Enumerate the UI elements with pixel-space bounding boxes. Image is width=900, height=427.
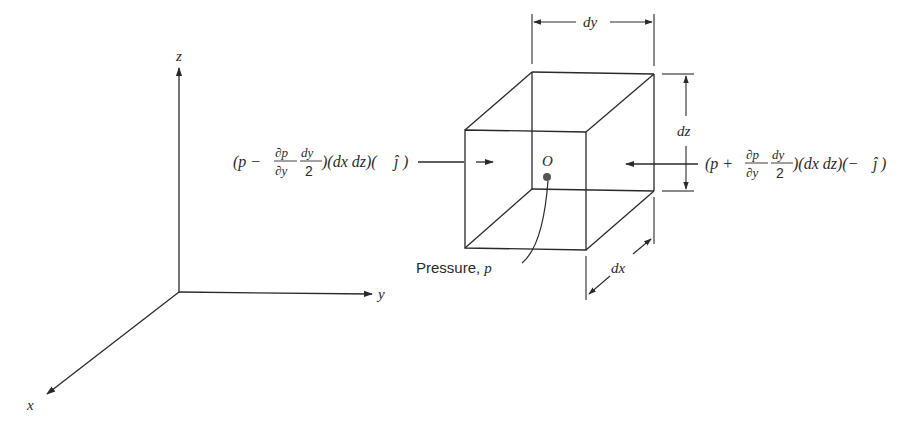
right-force-expression: (p + ∂p ∂y dy 2 )(dx dz)(− ĵ ): [705, 147, 886, 181]
svg-text:dy: dy: [772, 147, 785, 162]
svg-text:)(dx dz)(: )(dx dz)(: [321, 153, 378, 171]
svg-text:ĵ: ĵ: [871, 155, 879, 173]
svg-text:ĵ: ĵ: [392, 153, 400, 171]
center-point: [543, 173, 551, 181]
dy-label: dy: [583, 14, 598, 30]
svg-text:2: 2: [776, 165, 784, 181]
y-axis: [179, 292, 372, 294]
svg-text:∂y: ∂y: [746, 165, 758, 180]
svg-text:)(dx dz)(−: )(dx dz)(−: [792, 155, 858, 173]
x-axis-label: x: [26, 397, 34, 413]
svg-text:(p −: (p −: [233, 153, 261, 171]
dx-label: dx: [611, 260, 626, 276]
fluid-element-cube: [465, 72, 654, 250]
svg-text:∂p: ∂p: [275, 145, 288, 160]
svg-text:): ): [402, 153, 408, 171]
svg-text:dy: dy: [301, 145, 314, 160]
svg-text:): ): [880, 155, 886, 173]
svg-text:∂y: ∂y: [275, 163, 287, 178]
svg-text:(p +: (p +: [705, 155, 733, 173]
y-axis-label: y: [376, 286, 385, 302]
svg-text:2: 2: [305, 163, 313, 179]
dx-dimension: [586, 197, 654, 300]
z-axis-label: z: [175, 48, 182, 64]
center-label-O: O: [542, 153, 553, 169]
control-volume-diagram: z y x dy dz dx O: [0, 0, 900, 427]
coordinate-axes: [47, 68, 372, 394]
svg-text:∂p: ∂p: [746, 147, 759, 162]
x-axis: [47, 292, 179, 394]
pressure-label: Pressure, p: [416, 259, 492, 276]
dz-label: dz: [677, 123, 691, 139]
pressure-leader-line: [522, 181, 548, 263]
left-force-expression: (p − ∂p ∂y dy 2 )(dx dz)( ĵ ): [233, 145, 408, 179]
